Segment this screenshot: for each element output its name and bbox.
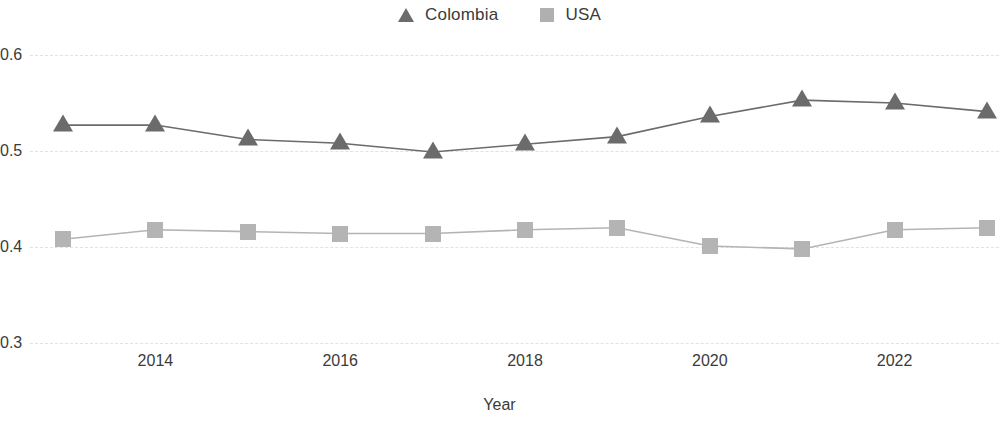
series-line-colombia — [63, 100, 987, 152]
series-lines — [0, 0, 999, 421]
chart-figure: Colombia USA 0.30.40.50.6 20142016201820… — [0, 0, 999, 421]
plot-area: 0.30.40.50.6 20142016201820202022 Year — [0, 0, 999, 421]
series-line-usa — [63, 228, 987, 249]
x-axis-title: Year — [0, 396, 999, 414]
